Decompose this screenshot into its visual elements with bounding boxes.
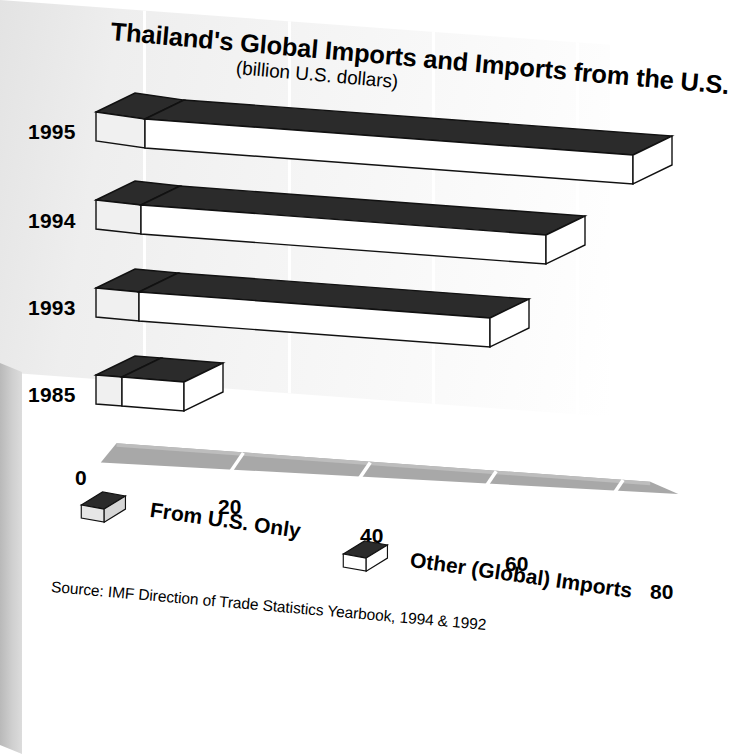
bar-1994[interactable] [96, 181, 585, 264]
legend-swatch-from-us-only [78, 485, 132, 525]
bar-1995-segment-from-us-face [96, 112, 145, 148]
y-axis-label-1985: 1985 [28, 383, 76, 407]
bar-1985[interactable] [96, 356, 223, 411]
bar-1993[interactable] [96, 269, 529, 347]
y-axis-label-1995: 1995 [28, 120, 76, 144]
y-axis-label-1993: 1993 [28, 296, 76, 320]
bar-1993-segment-from-us-face [96, 288, 139, 321]
bar-1985-segment-other-face [122, 377, 184, 411]
bar-1985-segment-from-us-face [96, 375, 122, 406]
bar-1994-segment-from-us-face [96, 200, 141, 234]
x-axis-tick-80: 80 [650, 580, 673, 604]
legend-swatch-other-global-imports [340, 534, 394, 574]
y-axis-label-1994: 1994 [28, 209, 76, 233]
